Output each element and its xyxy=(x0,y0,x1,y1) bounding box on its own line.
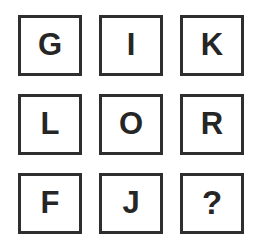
letter-grid: GIKLORFJ? xyxy=(18,15,243,234)
unknown-glyph: ? xyxy=(202,186,222,219)
letter-glyph: F xyxy=(41,187,60,218)
grid-cell[interactable]: K xyxy=(180,15,244,76)
letter-glyph: R xyxy=(201,108,223,139)
letter-glyph: O xyxy=(119,108,143,139)
grid-cell[interactable]: L xyxy=(18,94,82,155)
letter-glyph: J xyxy=(122,187,139,218)
letter-glyph: G xyxy=(38,29,62,60)
grid-cell[interactable]: R xyxy=(180,94,244,155)
grid-cell[interactable]: I xyxy=(99,15,163,76)
grid-cell[interactable]: F xyxy=(18,173,82,234)
grid-cell[interactable]: G xyxy=(18,15,82,76)
letter-glyph: K xyxy=(201,29,223,60)
grid-cell[interactable]: J xyxy=(99,173,163,234)
letter-glyph: L xyxy=(41,108,60,139)
grid-cell-unknown[interactable]: ? xyxy=(180,173,244,234)
puzzle-canvas: GIKLORFJ? xyxy=(0,0,257,249)
letter-glyph: I xyxy=(127,29,136,60)
grid-cell[interactable]: O xyxy=(99,94,163,155)
